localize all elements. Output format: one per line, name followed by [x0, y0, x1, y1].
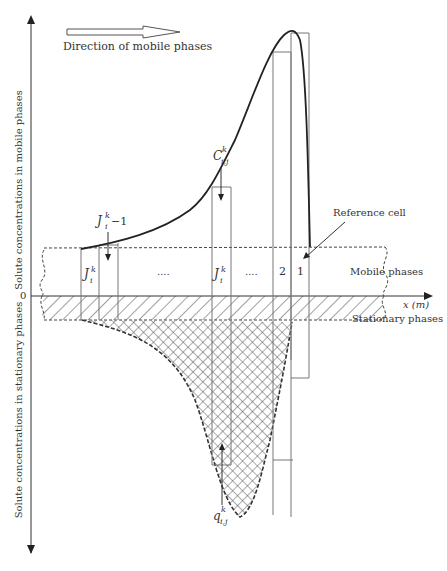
up-arrow-icon [27, 15, 35, 24]
stationary-concentration-area [82, 320, 292, 517]
svg-text:k: k [91, 265, 96, 274]
ellipsis-right: .... [245, 266, 258, 277]
svg-text:J: J [94, 214, 103, 228]
label-q: q k i,j [213, 505, 228, 526]
svg-text:J: J [81, 267, 90, 281]
y-axis [27, 15, 35, 554]
label-j-prev: J k i −1 [94, 211, 127, 231]
svg-text:i: i [220, 276, 223, 285]
svg-text:i,j: i,j [221, 157, 229, 166]
svg-text:i,j: i,j [220, 517, 228, 526]
mobile-phases-label: Mobile phases [350, 266, 423, 277]
svg-text:k: k [221, 505, 226, 514]
cell-grid [81, 33, 309, 517]
direction-arrow-icon [67, 26, 180, 38]
stationary-phases-label: Stationary phases [352, 313, 443, 324]
origin-label: 0 [20, 290, 26, 301]
x-axis-label: x (m) [403, 299, 429, 310]
svg-text:i: i [105, 222, 108, 231]
down-arrow-icon [27, 545, 35, 554]
direction-label: Direction of mobile phases [63, 40, 213, 53]
svg-text:k: k [221, 265, 226, 274]
cell-2-label: 2 [279, 265, 286, 278]
y-axis-upper-label: Solute concentrations in mobile phases [13, 90, 24, 290]
cell-1-label: 1 [297, 265, 304, 278]
stationary-band [42, 296, 386, 320]
down-arrow-icon [218, 194, 224, 201]
y-axis-lower-label: Solute concentrations in stationary phas… [13, 302, 24, 519]
cell-model-diagram: Direction of mobile phases Solute concen… [0, 0, 447, 571]
down-arrow-icon [105, 254, 111, 261]
svg-text:i: i [90, 276, 93, 285]
svg-text:−1: −1 [111, 215, 127, 228]
label-j-first: J k i [81, 265, 96, 285]
ellipsis-left: .... [157, 266, 170, 277]
svg-text:k: k [222, 145, 227, 154]
reference-cell-label: Reference cell [333, 207, 406, 218]
reference-cell-pointer [307, 222, 345, 256]
label-j-mid: J k i [211, 265, 226, 285]
mobile-band-left-edge [40, 250, 45, 296]
svg-text:k: k [105, 211, 110, 220]
